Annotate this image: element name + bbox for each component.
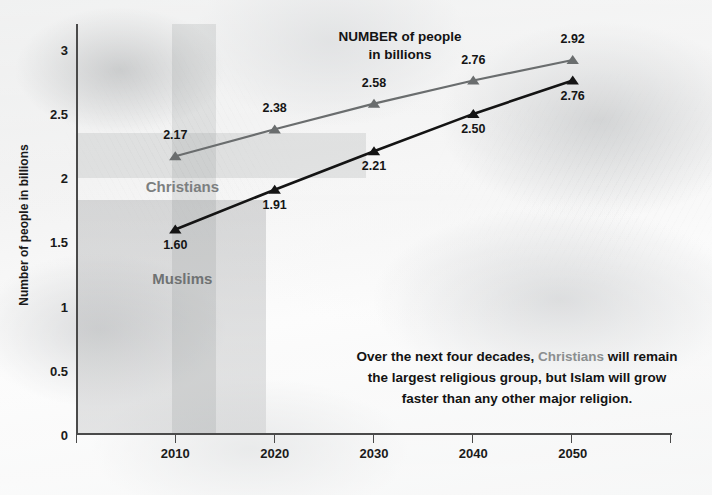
data-point-label: 2.92: [560, 32, 584, 46]
series-graphics-layer: [0, 0, 712, 495]
caption-text-line-2: the largest religious group, but Islam w…: [368, 370, 667, 385]
data-point-label: 2.50: [461, 122, 485, 136]
data-point-label: 1.91: [262, 198, 286, 212]
data-point-label: 2.21: [362, 159, 386, 173]
caption-text-part-2: will remain: [604, 349, 678, 364]
series-line-christians: [175, 60, 572, 156]
caption-text-line-3: faster than any other major religion.: [402, 391, 632, 406]
caption-text-part-1: Over the next four decades,: [356, 349, 538, 364]
data-point-label: 2.38: [262, 101, 286, 115]
caption-highlight-christians: Christians: [538, 349, 604, 364]
data-point-label: 2.17: [163, 128, 187, 142]
data-point-label: 1.60: [163, 238, 187, 252]
chart-figure: 00.511.522.53 Number of people in billio…: [0, 0, 712, 495]
series-label-muslims: Muslims: [152, 270, 212, 287]
series-label-christians: Christians: [146, 178, 219, 195]
data-point-marker: [567, 76, 579, 85]
data-point-label: 2.58: [362, 76, 386, 90]
data-point-label: 2.76: [461, 53, 485, 67]
chart-caption: Over the next four decades, Christians w…: [352, 347, 682, 410]
data-point-label: 2.76: [560, 89, 584, 103]
data-point-marker: [567, 55, 579, 64]
